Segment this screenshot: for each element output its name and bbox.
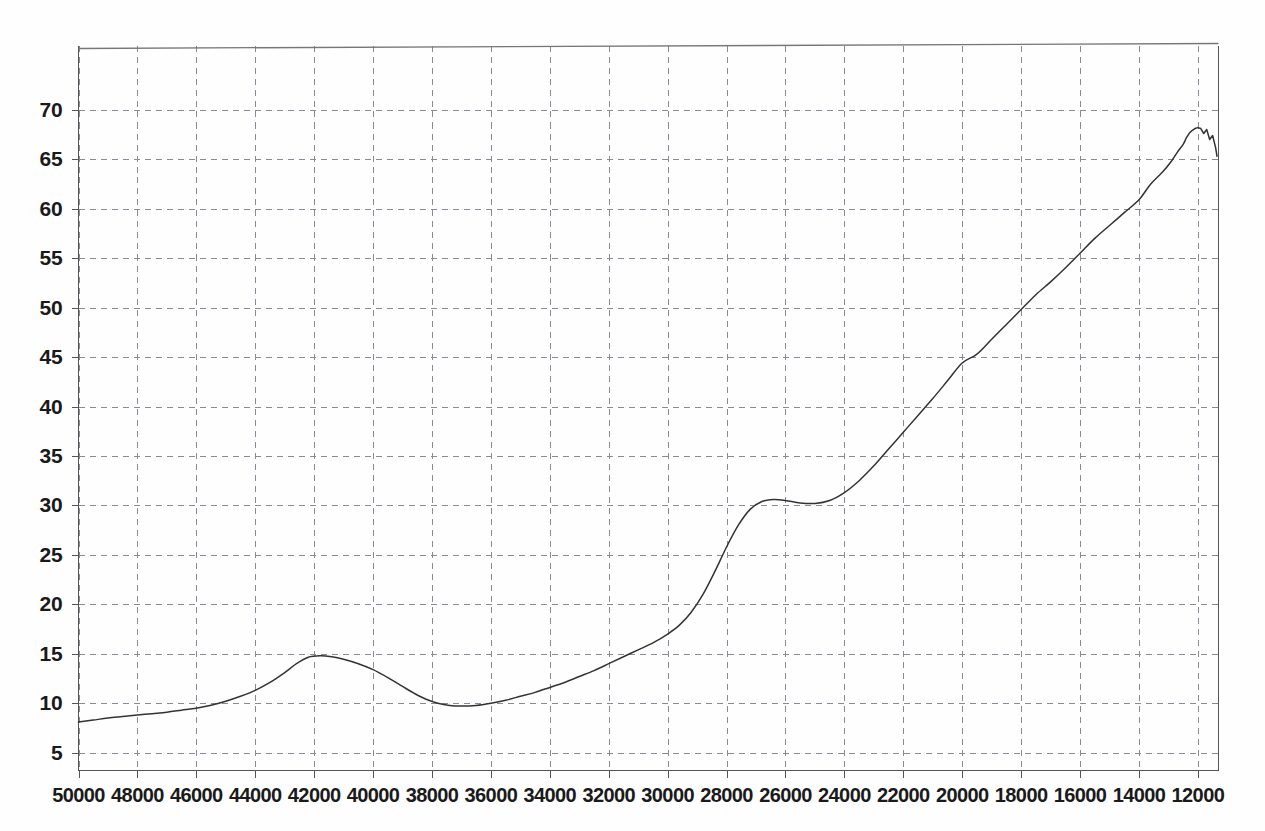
y-axis-tick-label: 60 <box>11 198 63 219</box>
y-axis-tick-label: 5 <box>11 742 63 763</box>
x-axis-ticks <box>80 771 1199 778</box>
y-axis-tick-label: 15 <box>11 643 63 664</box>
horizontal-gridlines <box>79 111 1219 754</box>
y-axis-tick-label: 55 <box>11 247 63 268</box>
y-axis-tick-label: 65 <box>11 148 63 169</box>
y-axis-tick-label: 10 <box>11 692 63 713</box>
data-series-line <box>79 128 1218 722</box>
line-chart-plot <box>0 0 1265 831</box>
y-axis-tick-label: 40 <box>11 396 63 417</box>
y-axis-tick-label: 50 <box>11 297 63 318</box>
y-axis-tick-label: 30 <box>11 494 63 515</box>
y-axis-tick-label: 45 <box>11 346 63 367</box>
y-axis-tick-label: 25 <box>11 544 63 565</box>
x-axis-tick-label: 12000 <box>1153 785 1243 805</box>
y-axis-ticks <box>72 111 79 754</box>
y-axis-tick-label: 20 <box>11 593 63 614</box>
chart-figure: 510152025303540455055606570 500004800046… <box>0 0 1265 831</box>
y-axis-tick-label: 35 <box>11 445 63 466</box>
y-axis-tick-label: 70 <box>11 99 63 120</box>
